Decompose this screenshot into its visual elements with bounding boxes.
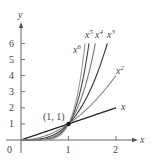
y-tick-label: 3 — [9, 86, 14, 97]
curve-label-x-pow-4: x4 — [94, 28, 103, 40]
y-tick-label: 4 — [9, 70, 14, 81]
y-ticks: 123456 — [9, 38, 25, 129]
intersection-label: (1, 1) — [43, 111, 65, 123]
x-axis-arrow-icon — [132, 138, 138, 142]
curve-x-pow-5 — [21, 43, 89, 140]
curve-label-x-pow-6: x6 — [72, 43, 81, 55]
x-tick-label: 2 — [113, 144, 118, 155]
x-ticks: 12 — [66, 136, 119, 155]
curve-label-x: x — [120, 101, 126, 112]
x-axis-label: x — [139, 134, 145, 145]
y-axis-arrow-icon — [19, 22, 23, 28]
curve-x-pow-6 — [21, 43, 85, 140]
power-functions-chart: 123456 12 y x 0 xx2x3x4x5x6 (1, 1) — [0, 0, 164, 166]
curve-label-x-pow-3: x3 — [106, 28, 115, 40]
y-tick-label: 6 — [9, 38, 14, 49]
y-tick-label: 1 — [9, 118, 14, 129]
y-axis-label: y — [17, 9, 23, 20]
curve-label-x-pow-2: x2 — [115, 64, 124, 76]
intersection-point — [66, 122, 70, 126]
curve-label-x-pow-5: x5 — [84, 28, 93, 40]
y-tick-label: 2 — [9, 102, 14, 113]
origin-label: 0 — [7, 144, 12, 155]
curve-x-pow-2 — [21, 76, 116, 140]
x-tick-label: 1 — [66, 144, 71, 155]
axes: 123456 12 y x 0 — [6, 9, 145, 155]
curve-x-pow-4 — [21, 43, 95, 140]
y-tick-label: 5 — [9, 54, 14, 65]
